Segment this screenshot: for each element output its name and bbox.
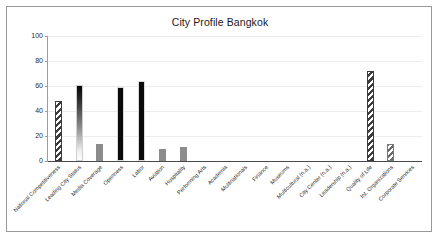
y-axis-tick-label: 60 [19, 82, 43, 89]
bar [159, 149, 166, 162]
chart-title: City Profile Bangkok [7, 16, 433, 28]
y-axis-tick-label: 100 [19, 32, 43, 39]
bar [387, 144, 394, 162]
plot-area [47, 36, 422, 162]
y-axis-tick-label: 0 [19, 157, 43, 164]
x-axis-tick-label: Labor [130, 164, 144, 178]
y-axis-tick [45, 136, 48, 137]
bar [76, 85, 83, 161]
x-axis-tick-label: Finance [251, 164, 269, 182]
bar [55, 101, 62, 161]
x-axis-tick-label: Openness [102, 164, 124, 186]
y-axis-labels: 020406080100 [17, 36, 43, 161]
chart-frame: City Profile Bangkok 020406080100 Nation… [6, 6, 432, 232]
x-axis-labels: National CompetitivenessLeading City Sta… [47, 164, 421, 234]
y-axis-tick-label: 80 [19, 57, 43, 64]
y-axis-tick [45, 61, 48, 62]
gridline [48, 61, 422, 62]
gridline [48, 36, 422, 37]
y-axis-tick [45, 111, 48, 112]
x-axis-tick-label: Aviation [147, 164, 165, 182]
y-axis-tick-label: 20 [19, 132, 43, 139]
bar [367, 71, 374, 161]
bar [117, 87, 124, 161]
y-axis-tick-label: 40 [19, 107, 43, 114]
bar [96, 144, 103, 162]
bar [180, 147, 187, 161]
y-axis-tick [45, 36, 48, 37]
y-axis-tick [45, 86, 48, 87]
y-axis-tick [45, 161, 48, 162]
bar [138, 81, 145, 161]
